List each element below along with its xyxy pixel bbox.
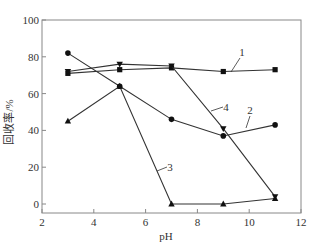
x-tick-label: 6 xyxy=(143,216,149,228)
series-2 xyxy=(65,50,278,138)
y-tick-label: 60 xyxy=(28,88,40,100)
circle-marker-icon xyxy=(169,117,175,123)
label-leader-line xyxy=(157,167,167,171)
series-label: 4 xyxy=(223,101,229,113)
triangle-up-marker-icon xyxy=(65,118,71,124)
series-line xyxy=(68,64,275,196)
y-tick-label: 80 xyxy=(28,51,40,63)
x-tick-label: 8 xyxy=(195,216,201,228)
x-axis-label: pH xyxy=(159,230,173,242)
plot-border xyxy=(42,20,301,213)
y-axis-label: 回收率/% xyxy=(2,99,15,144)
y-tick-label: 100 xyxy=(23,14,40,26)
series-label: 2 xyxy=(247,104,253,116)
y-tick-label: 0 xyxy=(34,198,40,210)
y-tick-label: 40 xyxy=(28,124,40,136)
x-axis-ticks: 24681012 xyxy=(39,209,306,228)
label-leader-line xyxy=(246,116,250,128)
circle-marker-icon xyxy=(65,50,71,56)
series-3 xyxy=(65,83,279,207)
label-leader-line xyxy=(231,58,240,72)
plot-frame xyxy=(42,20,301,213)
data-series xyxy=(65,50,279,206)
circle-marker-icon xyxy=(221,133,227,139)
x-tick-label: 12 xyxy=(296,216,307,228)
x-tick-label: 2 xyxy=(39,216,45,228)
square-marker-icon xyxy=(117,67,122,72)
square-marker-icon xyxy=(221,69,226,74)
square-marker-icon xyxy=(273,67,278,72)
series-label: 1 xyxy=(239,46,245,58)
x-tick-label: 10 xyxy=(244,216,256,228)
x-tick-label: 4 xyxy=(91,216,97,228)
label-leader-line xyxy=(211,107,223,111)
series-label: 3 xyxy=(167,161,173,173)
line-chart: 24681012 020406080100 1423 pH 回收率/% xyxy=(0,0,317,247)
series-line xyxy=(68,86,275,204)
y-tick-label: 20 xyxy=(28,161,40,173)
circle-marker-icon xyxy=(272,122,278,128)
